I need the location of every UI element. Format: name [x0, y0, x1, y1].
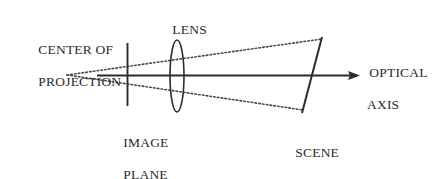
label-center-of-projection: CENTER OF PROJECTION [24, 26, 121, 106]
label-scene-object: SCENE OBJECT [281, 129, 346, 179]
label-optical-axis: OPTICAL AXIS [355, 49, 428, 145]
label-scene-object-line2: OBJECT [295, 177, 346, 179]
label-lens: LENS [158, 6, 207, 54]
label-optical-axis-line1: OPTICAL [369, 65, 427, 80]
label-optical-axis-line2: AXIS [355, 97, 428, 113]
label-image-plane-line2: PLANE [123, 167, 168, 179]
label-center-of-projection-line2: PROJECTION [38, 74, 121, 89]
figure-canvas: CENTER OF PROJECTION LENS OPTICAL AXIS I… [0, 0, 437, 179]
label-center-of-projection-line1: CENTER OF [38, 42, 113, 57]
label-image-plane-line1: IMAGE [123, 135, 168, 150]
label-scene-object-line1: SCENE [295, 145, 339, 160]
label-image-plane: IMAGE PLANE [109, 119, 169, 179]
label-lens-text: LENS [172, 22, 207, 37]
